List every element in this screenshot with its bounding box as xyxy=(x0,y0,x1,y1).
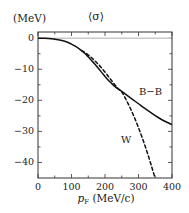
x-tick-label: 400 xyxy=(158,181,186,192)
figure-container: (MeV) ⟨σ⟩ 0−10−20−30−40 0100200300400 pF… xyxy=(0,0,189,213)
x-axis-subscript: F xyxy=(84,198,89,206)
x-tick-label: 200 xyxy=(91,181,119,192)
x-axis-title: pF (MeV/c) xyxy=(40,192,172,206)
series-curve-bb xyxy=(38,38,172,124)
y-tick-label: −20 xyxy=(4,94,34,105)
x-axis-unit: (MeV/c) xyxy=(92,192,134,204)
y-tick-label: −40 xyxy=(4,156,34,167)
data-curves xyxy=(38,38,172,176)
x-tick-label: 100 xyxy=(58,181,86,192)
series-label-bb: B−B xyxy=(139,86,162,97)
axes-frame xyxy=(38,32,172,178)
x-tick-label: 0 xyxy=(24,181,52,192)
series-curve-w xyxy=(82,51,155,177)
x-tick-label: 300 xyxy=(125,181,153,192)
y-tick-label: −10 xyxy=(4,63,34,74)
series-label-w: W xyxy=(121,134,131,145)
axis-ticks xyxy=(38,32,172,178)
y-tick-label: 0 xyxy=(4,32,34,43)
y-tick-label: −30 xyxy=(4,125,34,136)
